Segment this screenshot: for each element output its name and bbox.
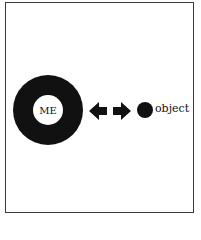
bidirectional-arrows-icon <box>88 101 132 121</box>
left-arrow-icon <box>89 102 107 120</box>
right-arrow-icon <box>113 102 131 120</box>
object-label: object <box>155 102 189 116</box>
self-ring-icon: ME <box>13 75 83 145</box>
self-ring-center: ME <box>33 95 63 125</box>
object-dot-icon <box>137 102 153 118</box>
self-label: ME <box>39 105 57 116</box>
